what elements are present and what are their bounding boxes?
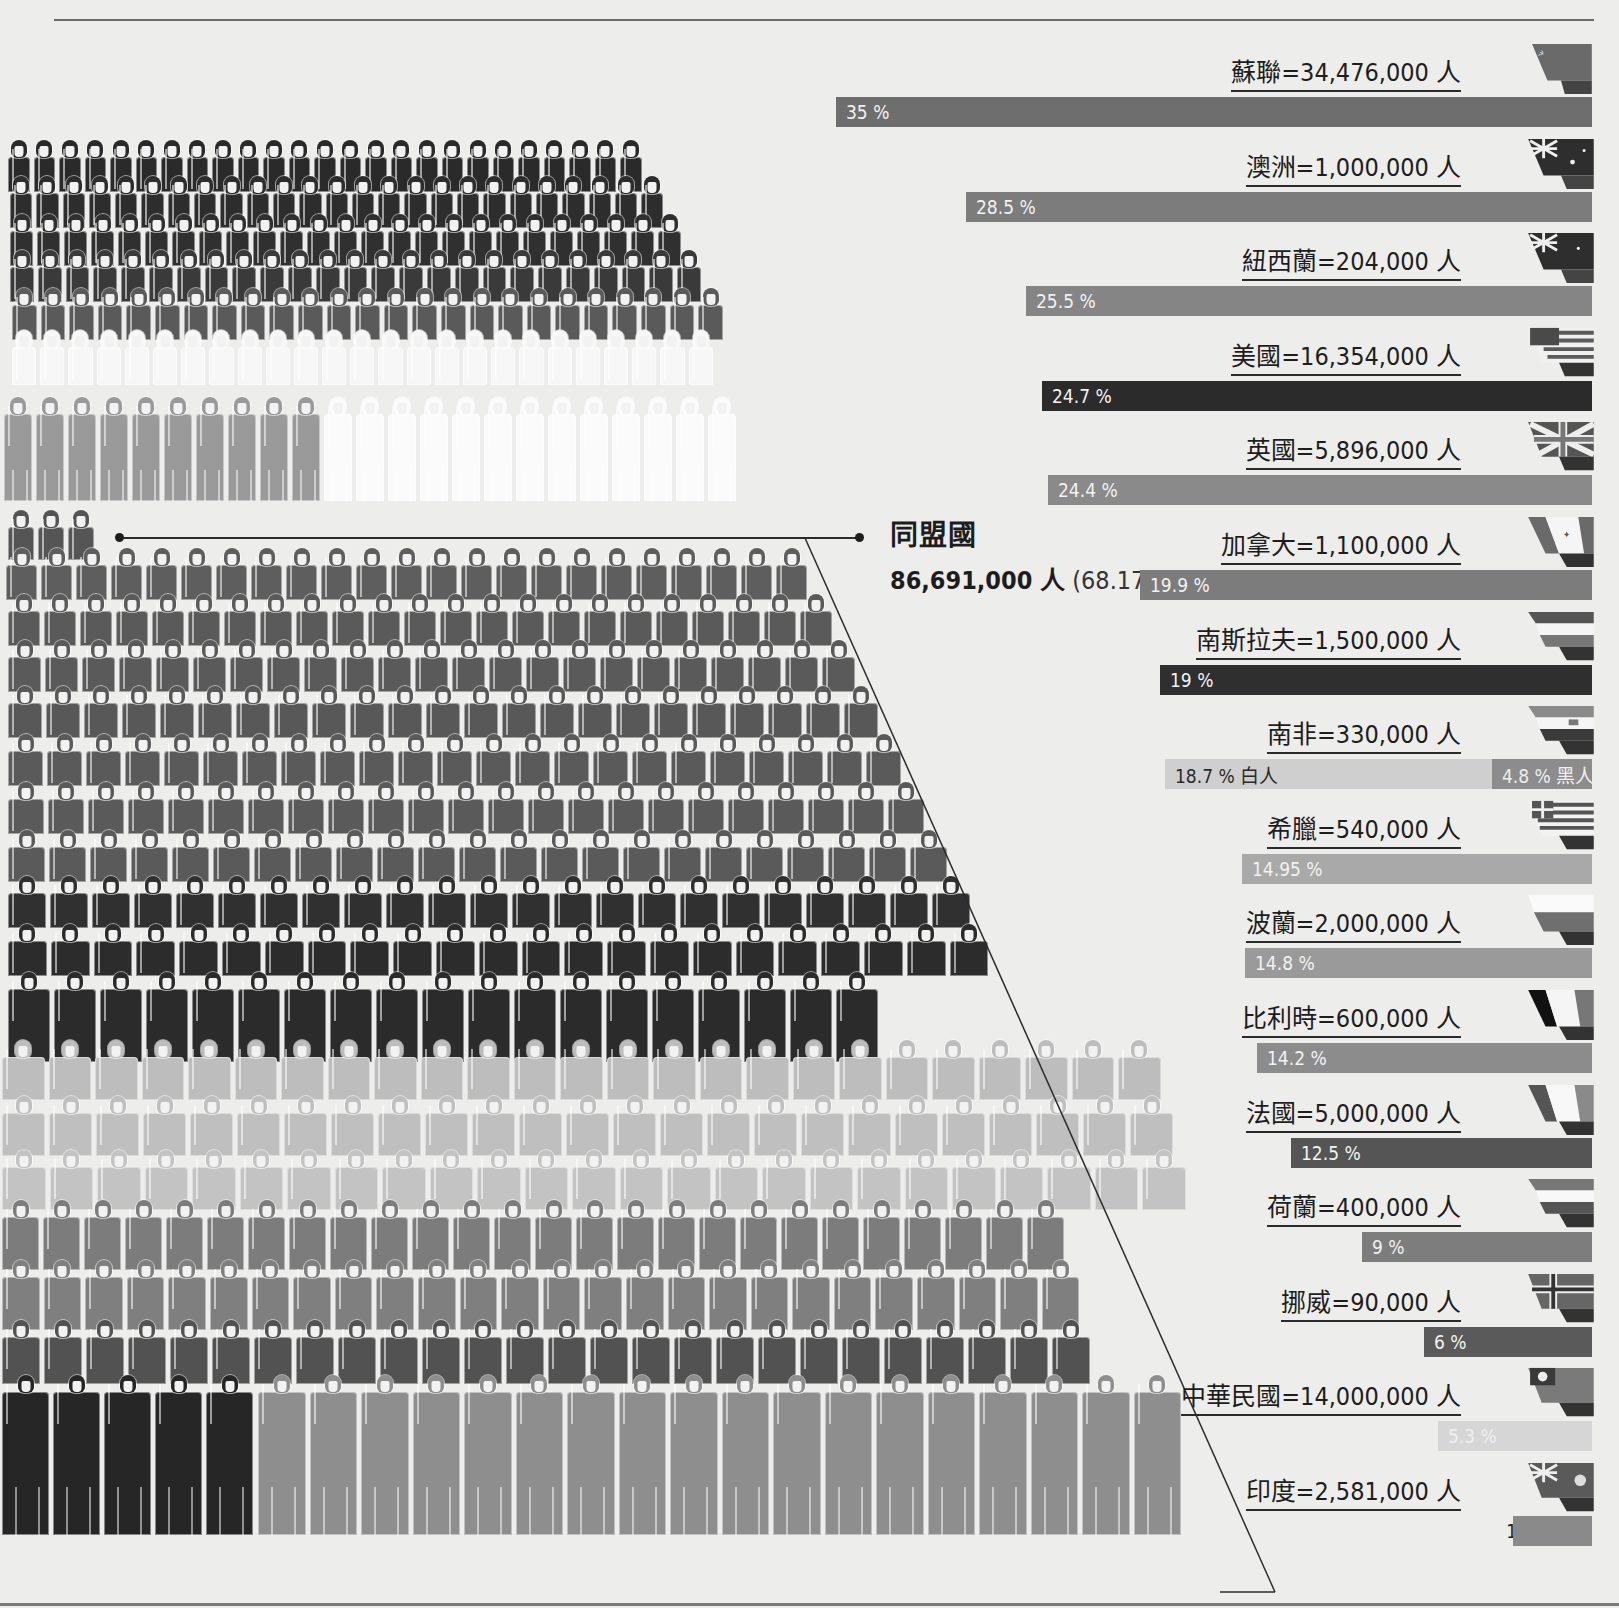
soldier-icon	[10, 330, 38, 385]
soldier-icon	[348, 330, 376, 385]
soldier-icon	[450, 397, 482, 501]
south-africa-flag-icon	[1523, 704, 1597, 758]
soldier-icon	[405, 330, 433, 385]
soldier-icon	[726, 782, 766, 834]
soldier-icon	[120, 686, 158, 738]
soldier-icon	[130, 397, 162, 501]
soldier-icon	[93, 1040, 140, 1100]
soldier-icon	[90, 876, 132, 928]
bar: 6 %	[1424, 1327, 1592, 1357]
soldier-icon	[510, 876, 552, 928]
soldier-icon	[552, 876, 594, 928]
soldier-icon	[635, 640, 672, 692]
soldier-icon	[150, 594, 186, 646]
soldier-icon	[179, 548, 214, 600]
country-label: 印度=2,581,000 人	[1246, 1471, 1461, 1511]
soldier-icon	[520, 924, 563, 976]
soldier-icon	[330, 594, 366, 646]
soldier-icon	[752, 1096, 799, 1156]
soldier-icon	[674, 397, 706, 501]
soldier-icon	[354, 397, 386, 501]
soldier-icon	[158, 686, 196, 738]
soldier-icon	[433, 330, 461, 385]
netherlands-flag-icon	[1523, 1177, 1597, 1231]
country-row: 紐西蘭=204,000 人25.5 %	[819, 229, 1619, 325]
soldier-icon	[300, 876, 342, 928]
soldier-icon	[561, 640, 598, 692]
soldier-icon	[489, 330, 517, 385]
bar: 25.5 %	[1026, 286, 1592, 316]
country-row: 法國=5,000,000 人12.5 %	[819, 1081, 1619, 1177]
soldier-icon	[42, 594, 78, 646]
soldier-icon	[462, 686, 500, 738]
soldier-icon	[602, 330, 630, 385]
soldier-icon	[582, 594, 618, 646]
soldier-icon	[284, 548, 319, 600]
country-row: 蘇聯=34,476,000 人☭35 %	[819, 40, 1619, 136]
poland-flag-icon	[1523, 893, 1597, 947]
soldier-icon	[462, 1375, 514, 1535]
soldier-icon	[396, 734, 435, 786]
svg-text:☭: ☭	[1538, 49, 1544, 58]
soldier-icon	[386, 397, 418, 501]
soldier-icon	[310, 686, 348, 738]
soldier-icon	[177, 924, 220, 976]
soldier-icon	[144, 548, 179, 600]
soldier-icon	[611, 1096, 658, 1156]
soldier-icon	[546, 594, 582, 646]
soldier-icon	[386, 686, 424, 738]
soldier-icon	[117, 640, 154, 692]
soldier-icon	[236, 330, 264, 385]
soldier-icon	[482, 397, 514, 501]
soldier-icon	[514, 1375, 566, 1535]
soldier-icon	[552, 734, 591, 786]
soldier-icon	[318, 734, 357, 786]
soldier-icon	[459, 548, 494, 600]
country-row: 英國=5,896,000 人24.4 %	[819, 418, 1619, 514]
bar: 28.5 %	[966, 192, 1592, 222]
soldier-icon	[6, 782, 46, 834]
soldier-row	[4, 548, 809, 600]
soldier-icon	[252, 830, 293, 882]
soldier-icon	[698, 1040, 745, 1100]
country-row: 澳洲=1,000,000 人28.5 %	[819, 135, 1619, 231]
soldier-row	[10, 330, 715, 385]
soldier-icon	[651, 1040, 698, 1100]
soldier-icon	[734, 924, 777, 976]
soldier-icon	[39, 548, 74, 600]
soldier-icon	[634, 548, 669, 600]
soldier-icon	[423, 1096, 470, 1156]
soldier-icon	[402, 594, 438, 646]
soldier-icon	[264, 330, 292, 385]
country-row: 希臘=540,000 人14.95 %	[819, 797, 1619, 893]
soldier-icon	[513, 734, 552, 786]
soldier-icon	[558, 1040, 605, 1100]
country-label: 南非=330,000 人	[1267, 714, 1461, 754]
soldier-row	[6, 686, 880, 738]
soldier-icon	[47, 1040, 94, 1100]
soldier-icon	[376, 330, 404, 385]
belgium-flag-icon	[1523, 988, 1597, 1042]
soldier-icon	[720, 1375, 772, 1535]
soldier-icon	[461, 330, 489, 385]
country-row: 中華民國=14,000,000 人5.3 %	[819, 1364, 1619, 1460]
soldier-icon	[411, 1375, 463, 1535]
france-flag-icon	[1523, 1083, 1597, 1137]
soldier-icon	[703, 830, 744, 882]
soldier-icon	[465, 1040, 512, 1100]
soldier-icon	[129, 830, 170, 882]
soldier-icon	[348, 686, 386, 738]
soldier-icon	[426, 876, 468, 928]
soldier-icon	[191, 640, 228, 692]
country-label: 比利時=600,000 人	[1242, 998, 1461, 1038]
soldier-icon	[320, 330, 348, 385]
soldier-icon	[418, 397, 450, 501]
soldier-icon	[326, 1040, 373, 1100]
soldier-icon	[98, 397, 130, 501]
soldier-icon	[366, 594, 402, 646]
bar: 19.9 %	[1140, 570, 1592, 600]
soldier-icon	[468, 876, 510, 928]
connector-dot-left	[115, 533, 124, 542]
soldier-icon	[294, 594, 330, 646]
soldier-icon	[188, 1096, 235, 1156]
